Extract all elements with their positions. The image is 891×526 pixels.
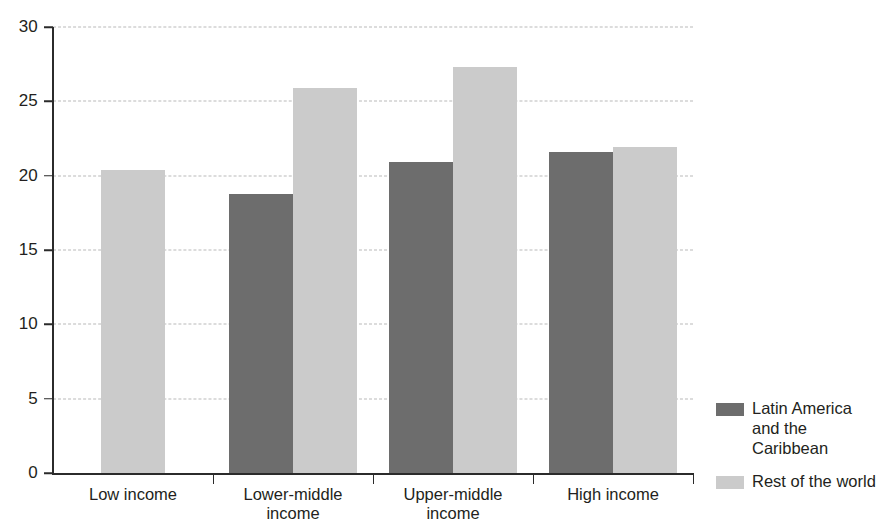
x-axis-separator-tick — [373, 473, 374, 484]
bar-rest-of-world — [453, 67, 517, 473]
bar-latin-america — [229, 194, 293, 473]
legend-item-rest-of-world: Rest of the world — [716, 471, 886, 495]
x-axis-category-label: High income — [533, 485, 693, 504]
x-axis-category-label: Low income — [53, 485, 213, 504]
bar-latin-america — [549, 152, 613, 473]
legend-label-latin-america: Latin America and the Caribbean — [752, 398, 886, 458]
x-axis-separator-tick — [693, 473, 694, 484]
bar-chart: 051015202530 Low incomeLower-middle inco… — [0, 0, 891, 526]
x-axis-category-label: Upper-middle income — [373, 485, 533, 523]
legend-label-rest-of-world: Rest of the world — [752, 471, 886, 491]
bar-rest-of-world — [613, 147, 677, 473]
bar-rest-of-world — [101, 170, 165, 473]
legend: Latin America and the Caribbean Rest of … — [716, 398, 886, 508]
legend-swatch-light — [716, 476, 744, 489]
bar-rest-of-world — [293, 88, 357, 473]
x-axis-separator-tick — [213, 473, 214, 484]
legend-item-latin-america: Latin America and the Caribbean — [716, 398, 886, 458]
x-axis-category-label: Lower-middle income — [213, 485, 373, 523]
x-axis-separator-tick — [533, 473, 534, 484]
bar-latin-america — [389, 162, 453, 473]
legend-swatch-dark — [716, 403, 744, 416]
